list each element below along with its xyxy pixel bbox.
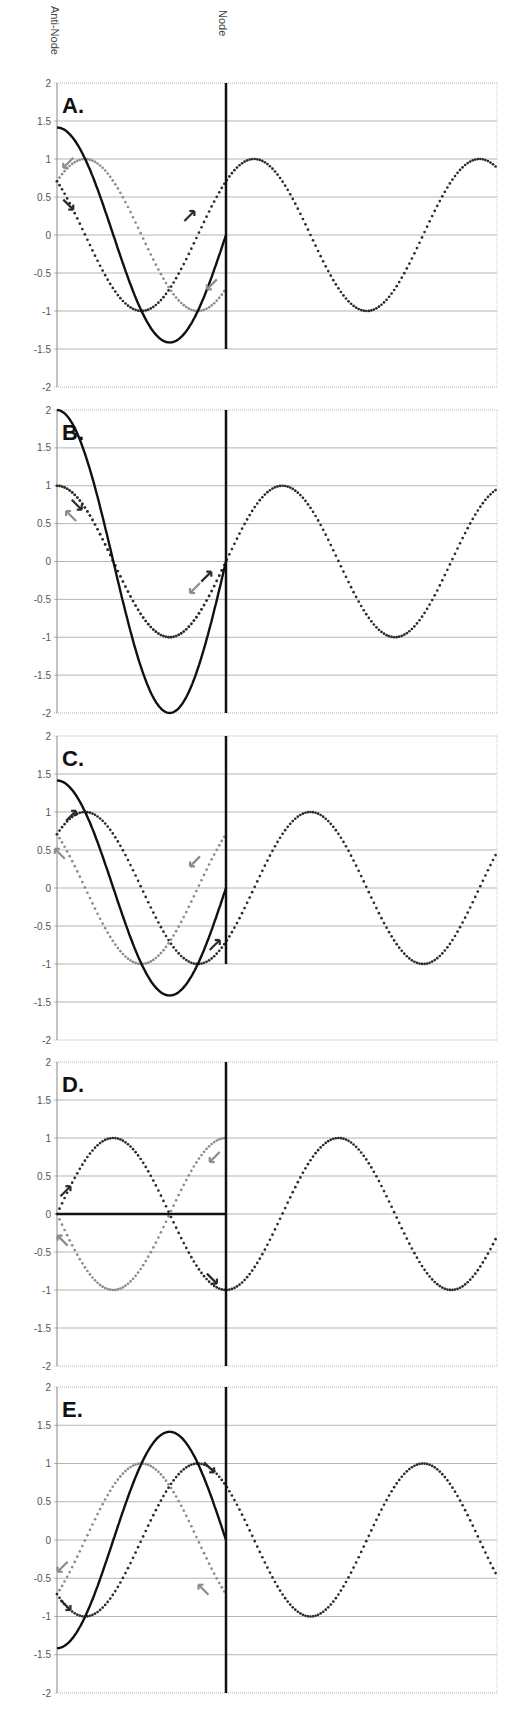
y-tick-label: 2 <box>45 1057 51 1068</box>
reflected-wave <box>56 1462 226 1595</box>
y-tick-label: -1 <box>42 306 51 317</box>
y-tick-label: 0 <box>45 1209 51 1220</box>
y-tick-label: 1 <box>45 1133 51 1144</box>
y-tick-label: 1 <box>45 807 51 818</box>
direction-arrow-icon <box>66 511 76 521</box>
panel-b: 21.510.50-0.5-1-1.5-2B. <box>34 405 497 719</box>
y-tick-label: -1 <box>42 959 51 970</box>
y-tick-label: 0 <box>45 556 51 567</box>
y-tick-label: 0.5 <box>37 1171 51 1182</box>
y-tick-label: -0.5 <box>34 268 52 279</box>
direction-arrow-icon <box>184 211 194 221</box>
y-tick-label: 1 <box>45 154 51 165</box>
reflected-wave <box>56 833 226 965</box>
panel-label: E. <box>62 1397 83 1422</box>
direction-arrow-icon <box>190 856 200 866</box>
y-tick-label: -2 <box>42 1035 51 1046</box>
panel-label: D. <box>62 1072 84 1097</box>
direction-arrow-icon <box>60 1186 70 1196</box>
panel-c: 21.510.50-0.5-1-1.5-2C. <box>34 731 497 1046</box>
y-tick-label: 1.5 <box>37 442 51 453</box>
y-tick-label: 1.5 <box>37 116 51 127</box>
y-tick-label: -1.5 <box>34 344 52 355</box>
y-tick-label: -0.5 <box>34 1247 52 1258</box>
y-tick-label: 0 <box>45 1535 51 1546</box>
y-tick-label: 2 <box>45 405 51 416</box>
y-tick-label: 0.5 <box>37 1496 51 1507</box>
y-tick-label: -1.5 <box>34 1323 52 1334</box>
y-tick-label: 0.5 <box>37 192 51 203</box>
direction-arrow-icon <box>58 1236 68 1246</box>
y-tick-label: -0.5 <box>34 1573 52 1584</box>
y-tick-label: -1 <box>42 632 51 643</box>
y-tick-label: 0 <box>45 883 51 894</box>
direction-arrow-icon <box>198 1585 208 1595</box>
y-tick-label: 2 <box>45 731 51 742</box>
panel-label: C. <box>62 746 84 771</box>
direction-arrow-icon <box>58 1562 68 1572</box>
y-tick-label: -1.5 <box>34 997 52 1008</box>
y-tick-label: 0.5 <box>37 518 51 529</box>
y-tick-label: -0.5 <box>34 594 52 605</box>
y-tick-label: -1 <box>42 1285 51 1296</box>
y-tick-label: 1.5 <box>37 769 51 780</box>
y-tick-label: -2 <box>42 382 51 393</box>
y-tick-label: 2 <box>45 78 51 89</box>
panel-d: 21.510.50-0.5-1-1.5-2D. <box>34 1057 497 1372</box>
y-tick-label: 1 <box>45 480 51 491</box>
y-tick-label: -0.5 <box>34 921 52 932</box>
y-tick-label: 0.5 <box>37 845 51 856</box>
direction-arrow-icon <box>201 572 211 582</box>
direction-arrow-icon <box>63 200 73 210</box>
y-tick-label: 1.5 <box>37 1420 51 1431</box>
panel-a: 21.510.50-0.5-1-1.5-2A. <box>34 78 497 393</box>
y-tick-label: -2 <box>42 1361 51 1372</box>
y-tick-label: -2 <box>42 1688 51 1699</box>
y-tick-label: -1 <box>42 1611 51 1622</box>
panel-e: 21.510.50-0.5-1-1.5-2E. <box>34 1382 497 1699</box>
direction-arrow-icon <box>60 1600 70 1610</box>
wave-panels: 21.510.50-0.5-1-1.5-2A.21.510.50-0.5-1-1… <box>0 0 520 1721</box>
y-tick-label: -1.5 <box>34 1649 52 1660</box>
y-tick-label: 0 <box>45 230 51 241</box>
panel-label: A. <box>62 93 84 118</box>
y-tick-label: -1.5 <box>34 670 52 681</box>
y-tick-label: 2 <box>45 1382 51 1393</box>
standing-wave-figure: Anti-Node Node 21.510.50-0.5-1-1.5-2A.21… <box>0 0 520 1721</box>
direction-arrow-icon <box>210 940 220 950</box>
y-tick-label: 1 <box>45 1458 51 1469</box>
direction-arrow-icon <box>210 1152 220 1162</box>
direction-arrow-icon <box>190 583 200 593</box>
y-tick-label: -2 <box>42 708 51 719</box>
y-tick-label: 1.5 <box>37 1095 51 1106</box>
